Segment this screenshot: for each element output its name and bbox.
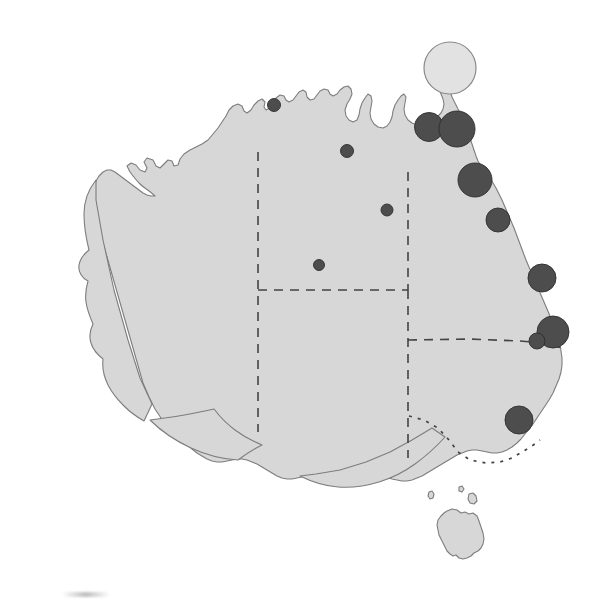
map-symbol-circle: Northwest Queensland [381,204,393,216]
map-symbol-circle: Gulf coast, Northern Territory [341,145,354,158]
map-symbol-circle: North Queensland coast [486,208,510,232]
king-island-shape [428,491,434,499]
cropped-caption-smudge [62,592,110,597]
map-symbol-circle: Central New South Wales coast [505,406,533,434]
map-symbol-circle: Central Australia [314,260,325,271]
flinders-island-shape [468,493,477,504]
bass-strait-islet [459,486,464,492]
map-symbol-circle: Torres Strait / north Cape York [424,42,476,94]
map-symbol-circle: Southeast Queensland inland [529,333,545,349]
australia-distribution-map: Torres Strait / north Cape YorkGulf of C… [0,0,615,604]
map-canvas: Torres Strait / north Cape YorkGulf of C… [0,0,615,604]
tasmania-shape [437,509,484,559]
tasmania-group [428,486,484,559]
map-symbol-circle: Cape York Peninsula [439,111,475,147]
map-symbol-circle: Top End, Northern Territory [268,99,281,112]
map-symbol-circle: Far north Queensland coast [458,163,492,197]
map-symbol-circle: Central Queensland coast [528,264,556,292]
